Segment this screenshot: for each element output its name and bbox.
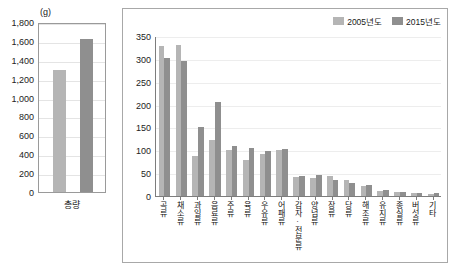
x-axis-tickmark — [264, 197, 265, 200]
food-group-chart: 2005년도 2015년도 350300250200150100500곡류채소류… — [122, 8, 448, 263]
bar-group — [190, 37, 207, 196]
gridline — [39, 118, 105, 119]
x-axis-tickmark — [348, 197, 349, 200]
x-axis-tickmark — [180, 197, 181, 200]
legend-swatch-icon — [392, 17, 403, 25]
x-axis-tickmark — [332, 197, 333, 200]
gridline — [39, 43, 105, 44]
bar-group — [156, 37, 173, 196]
total-intake-chart: (g) 총량 1,8001,6001,4001,2001,00080060040… — [0, 0, 118, 272]
x-axis-tickmark — [433, 197, 434, 200]
x-axis-label: 당류 — [343, 201, 351, 217]
x-axis-tickmark — [416, 197, 417, 200]
chart-figure: (g) 총량 1,8001,6001,4001,2001,00080060040… — [0, 0, 452, 272]
bar-group — [307, 37, 324, 196]
x-axis-tickmark — [399, 197, 400, 200]
x-axis-tickmark — [248, 197, 249, 200]
bar-2015 — [383, 190, 389, 196]
x-axis-tickmark — [214, 197, 215, 200]
x-axis-label: 종실류 — [394, 201, 402, 225]
x-axis-tickmark — [365, 197, 366, 200]
gridline — [39, 81, 105, 82]
legend-item-2005: 2005년도 — [333, 15, 382, 27]
y-axis-tick: 400 — [0, 151, 34, 160]
x-axis-label: 양념류 — [310, 201, 318, 225]
bar-group — [425, 37, 442, 196]
bar-2005 — [53, 70, 66, 192]
y-axis-tick: 150 — [123, 124, 151, 133]
bar-2015 — [181, 61, 187, 196]
x-axis-label-total: 총량 — [38, 198, 106, 211]
bar-2015 — [249, 148, 255, 196]
y-axis-tick: 0 — [0, 189, 34, 198]
y-axis-tick: 300 — [123, 56, 151, 65]
bar-2015 — [366, 185, 372, 196]
x-axis-label: 감자·전분류 — [293, 201, 301, 250]
y-axis-tick: 350 — [123, 33, 151, 42]
x-axis-label: 음료류 — [209, 201, 217, 225]
bar-2015 — [349, 183, 355, 196]
legend-item-2015: 2015년도 — [392, 15, 441, 27]
x-axis-label: 주류 — [226, 201, 234, 217]
bar-2015 — [333, 180, 339, 196]
x-axis-label: 곡류 — [158, 201, 166, 217]
x-axis-tickmark — [163, 197, 164, 200]
x-axis-label: 육류 — [243, 201, 251, 217]
x-axis-tickmark — [298, 197, 299, 200]
gridline — [39, 137, 105, 138]
bar-2015 — [198, 127, 204, 196]
x-axis-tickmark — [281, 197, 282, 200]
bar-2015 — [80, 39, 93, 192]
bar-group — [206, 37, 223, 196]
bar-group — [173, 37, 190, 196]
y-axis-tick: 800 — [0, 113, 34, 122]
gridline — [39, 62, 105, 63]
y-axis-tick: 200 — [0, 170, 34, 179]
x-axis-label: 과일류 — [192, 201, 200, 225]
bar-group — [392, 37, 409, 196]
bar-group — [223, 37, 240, 196]
bar-group — [341, 37, 358, 196]
x-axis-label: 버섯류 — [411, 201, 419, 225]
bar-2015 — [316, 175, 322, 196]
y-axis-tick: 0 — [123, 193, 151, 202]
x-axis-label: 어패류 — [276, 201, 284, 225]
y-axis-tick: 50 — [123, 170, 151, 179]
x-axis-label: 우유류 — [259, 201, 267, 225]
y-axis-tick: 1,400 — [0, 57, 34, 66]
y-axis-tick: 600 — [0, 132, 34, 141]
legend-swatch-icon — [333, 17, 344, 25]
x-axis-label: 채소류 — [175, 201, 183, 225]
food-group-plot-area — [155, 37, 441, 197]
y-axis-tick: 1,800 — [0, 19, 34, 28]
y-axis-tick: 1,200 — [0, 76, 34, 85]
gridline — [39, 24, 105, 25]
x-axis-tickmark — [197, 197, 198, 200]
bar-group — [257, 37, 274, 196]
bar-2015 — [417, 193, 423, 196]
x-axis-label: 해조류 — [360, 201, 368, 225]
chart-legend: 2005년도 2015년도 — [333, 15, 441, 27]
x-axis-label: 기타 — [428, 201, 436, 217]
gridline — [39, 175, 105, 176]
y-axis-tick: 250 — [123, 79, 151, 88]
x-axis-label: 장류 — [327, 201, 335, 217]
bar-group — [408, 37, 425, 196]
legend-label: 2015년도 — [406, 15, 441, 27]
bar-group — [324, 37, 341, 196]
gridline — [39, 156, 105, 157]
x-axis-tickmark — [231, 197, 232, 200]
bar-2015 — [282, 149, 288, 196]
x-axis-tickmark — [315, 197, 316, 200]
x-axis-tickmark — [382, 197, 383, 200]
bar-2015 — [299, 176, 305, 196]
bar-group — [240, 37, 257, 196]
y-axis-tick: 1,600 — [0, 38, 34, 47]
total-intake-plot-area — [38, 23, 106, 193]
gridline — [39, 100, 105, 101]
bar-group — [291, 37, 308, 196]
y-axis-unit-label: (g) — [40, 8, 51, 17]
bar-2015 — [215, 102, 221, 196]
y-axis-tick: 1,000 — [0, 95, 34, 104]
legend-label: 2005년도 — [347, 15, 382, 27]
